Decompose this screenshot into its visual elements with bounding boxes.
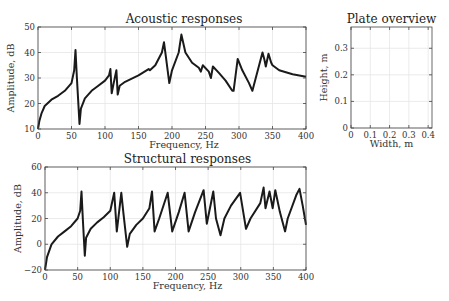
chart-acoustic-xtick-label: 350	[264, 131, 280, 141]
chart-plate-ytick-label: 0.1	[334, 96, 348, 106]
chart-structural-xtick-label: 100	[102, 272, 118, 282]
chart-structural-ytick-label: 60	[31, 162, 42, 172]
chart-acoustic-xtick-label: 150	[130, 131, 146, 141]
chart-structural-xtick-label: 400	[298, 272, 314, 282]
chart-plate-ytick-label: 0	[343, 123, 348, 133]
chart-structural-ytick-label: 20	[31, 214, 42, 224]
chart-structural-xtick-label: 50	[72, 272, 83, 282]
chart-plate-xtick-label: 0.4	[421, 130, 435, 140]
chart-structural-xtick-label: 150	[135, 272, 151, 282]
chart-plate-title: Plate overview	[347, 12, 437, 26]
chart-acoustic-ytick-label: 10	[24, 124, 35, 134]
chart-plate-ytick-label: 0.3	[334, 43, 348, 53]
chart-acoustic-xtick-label: 0	[35, 131, 40, 141]
chart-plate-ylabel: Height, m	[318, 53, 329, 101]
chart-structural-ytick-label: 0	[37, 239, 42, 249]
chart-plate-ytick-label: 0.2	[334, 70, 348, 80]
chart-plate-xtick-label: 0	[348, 130, 353, 140]
figure: 0501001502002503003504001020304050Acoust…	[0, 0, 449, 301]
chart-acoustic-xtick-label: 400	[298, 131, 314, 141]
chart-acoustic-xtick-label: 300	[231, 131, 247, 141]
chart-acoustic-ytick-label: 40	[24, 48, 35, 58]
chart-acoustic-ylabel: Amplitude, dB	[5, 44, 16, 114]
chart-plate-axes-frame	[351, 27, 432, 128]
chart-plate-xlabel: Width, m	[370, 138, 414, 149]
chart-structural-xlabel: Frequency, Hz	[153, 280, 222, 291]
chart-structural-xtick-label: 300	[233, 272, 249, 282]
chart-acoustic-ytick-label: 30	[24, 73, 35, 83]
chart-acoustic-title: Acoustic responses	[125, 12, 243, 26]
chart-structural-ytick-label: 40	[31, 188, 42, 198]
chart-acoustic-xlabel: Frequency, Hz	[149, 139, 218, 150]
chart-acoustic-xtick-label: 50	[66, 131, 77, 141]
chart-structural-xtick-label: 0	[42, 272, 47, 282]
chart-structural-xtick-label: 350	[265, 272, 281, 282]
chart-structural-title: Structural responses	[124, 152, 251, 166]
chart-acoustic-ytick-label: 20	[24, 99, 35, 109]
chart-structural-ylabel: Amplitude, dB	[12, 184, 23, 254]
chart-structural-ytick-label: −20	[24, 265, 42, 275]
chart-acoustic-ytick-label: 50	[24, 22, 35, 32]
chart-acoustic-xtick-label: 100	[97, 131, 113, 141]
